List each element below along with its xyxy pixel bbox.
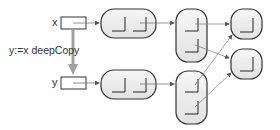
object-f — [231, 49, 262, 79]
object-a — [101, 9, 156, 38]
object-d — [176, 71, 207, 124]
operation-label: y:=x deepCopy — [9, 44, 79, 56]
variable-label-x: x — [52, 16, 58, 28]
variable-label-y: y — [52, 76, 58, 88]
object-b — [101, 70, 156, 99]
copy-arrow-icon — [68, 64, 78, 75]
deep-copy-diagram — [0, 0, 280, 130]
object-e — [231, 9, 262, 39]
object-c — [176, 9, 207, 62]
